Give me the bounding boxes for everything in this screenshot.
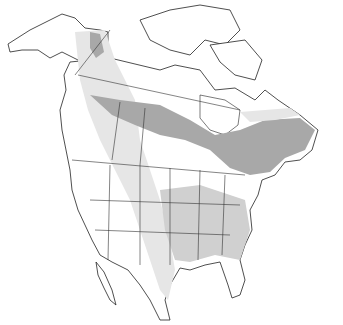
range-map: [0, 0, 343, 325]
